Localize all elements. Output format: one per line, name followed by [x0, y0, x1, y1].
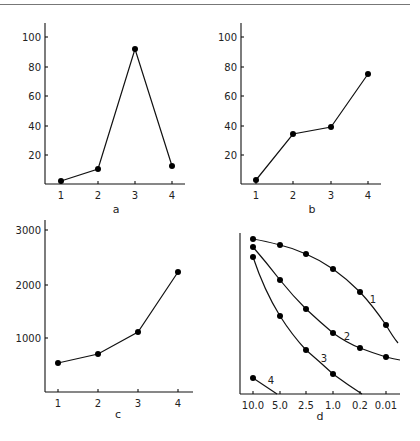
x-tick-label: 4: [175, 398, 181, 409]
x-tick-label: 10.0: [242, 400, 264, 411]
series-line-2: [253, 247, 400, 360]
panel-a: 100 80 60 40 20 1 2 3 4 a: [22, 23, 185, 216]
x-tick-label: 3: [132, 190, 138, 201]
data-point: [253, 177, 259, 183]
x-tick-label: 3: [135, 398, 141, 409]
data-point: [135, 329, 141, 335]
series-label-1: 1: [370, 294, 376, 305]
data-point: [95, 351, 101, 357]
x-tick-label: 0.2: [352, 400, 368, 411]
x-tick-label: 4: [169, 190, 175, 201]
x-tick-label: 0.01: [375, 400, 397, 411]
data-point: [55, 360, 61, 366]
x-tick-label: 2: [95, 398, 101, 409]
x-tick-label: 1: [58, 190, 64, 201]
x-tick-label: 2: [95, 190, 101, 201]
data-point: [58, 178, 64, 184]
x-tick-label: 1: [55, 398, 61, 409]
x-tick-label: 3: [328, 190, 334, 201]
y-tick-label: 80: [28, 62, 41, 73]
data-point: [95, 166, 101, 172]
x-tick-label: 2.5: [298, 400, 314, 411]
x-tick-label: 1: [253, 190, 259, 201]
x-tick-label: 2: [290, 190, 296, 201]
data-point: [175, 269, 181, 275]
series-label-3: 3: [321, 353, 327, 364]
panel-caption: c: [115, 408, 121, 421]
y-tick-label: 20: [224, 150, 237, 161]
panel-caption: b: [309, 203, 316, 216]
series-label-2: 2: [344, 331, 350, 342]
y-tick-label: 60: [224, 91, 237, 102]
y-tick-label: 40: [28, 121, 41, 132]
data-point: [328, 124, 334, 130]
series-label-4: 4: [268, 375, 274, 386]
x-tick-label: 5.0: [272, 400, 288, 411]
data-point: [132, 46, 138, 52]
series-line: [61, 49, 172, 181]
panel-caption: a: [113, 203, 120, 216]
figure: 100 80 60 40 20 1 2 3 4 a 100 80 60 40 2…: [0, 0, 420, 441]
panel-caption: d: [317, 410, 324, 423]
y-tick-label: 1000: [16, 333, 41, 344]
data-point: [290, 131, 296, 137]
y-tick-label: 100: [22, 32, 41, 43]
data-point: [365, 71, 371, 77]
panel-b: 100 80 60 40 20 1 2 3 4 b: [218, 23, 381, 216]
y-tick-label: 20: [28, 150, 41, 161]
data-point: [169, 163, 175, 169]
series-line: [58, 272, 178, 363]
y-tick-label: 100: [218, 32, 237, 43]
x-tick-label: 1.0: [325, 400, 341, 411]
y-tick-label: 2000: [16, 280, 41, 291]
y-tick-label: 80: [224, 62, 237, 73]
panel-c: 3000 2000 1000 1 2 3 4 c: [16, 220, 193, 421]
series-line-1: [253, 239, 398, 343]
panel-d: 10.0 5.0 2.5 1.0 0.2 0.01 d 1 2 3: [240, 233, 400, 423]
series-line: [256, 74, 368, 180]
y-tick-label: 40: [224, 121, 237, 132]
x-tick-label: 4: [365, 190, 371, 201]
y-tick-label: 3000: [16, 225, 41, 236]
series-line-3: [253, 257, 362, 394]
y-tick-label: 60: [28, 91, 41, 102]
